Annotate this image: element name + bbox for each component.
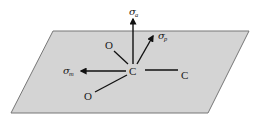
label-sigma-a: σ a — [129, 6, 138, 18]
atom-o-top: O — [105, 39, 113, 51]
atom-o-bottom: O — [84, 90, 92, 102]
atom-c-central: C — [129, 65, 136, 77]
carboxyl-tensor-diagram: C C O O σ a σ p σ m — [0, 0, 259, 120]
svg-text:a: a — [135, 11, 138, 18]
svg-text:m: m — [69, 70, 74, 77]
atom-c-right: C — [181, 69, 188, 81]
